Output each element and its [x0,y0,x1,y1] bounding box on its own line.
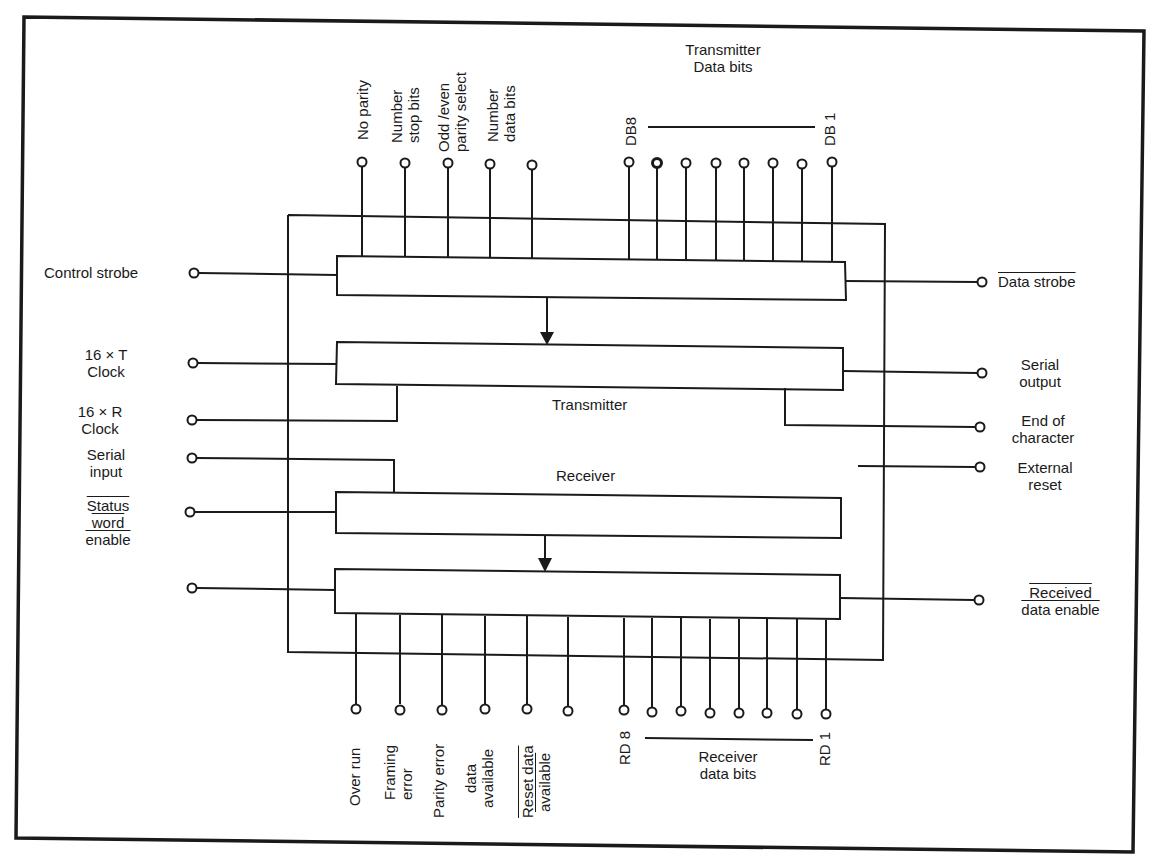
receiver-data-bits-title: Receiver data bits [683,748,773,782]
tx-buffer-block [337,256,846,300]
label-framing-error: Framing error [381,745,415,800]
label-received-data-enable: Received data enable [1008,584,1113,618]
label-db8: DB8 [622,117,639,146]
uart-diagram-canvas [0,0,1153,862]
label-receiver: Receiver [556,467,615,484]
label-over-run: Over run [346,748,363,806]
transmitter-block [336,342,843,390]
label-16x-t-clock: 16 × T Clock [76,346,136,380]
arrow-down-icon [540,332,554,345]
label-data-strobe: Data strobe [998,273,1076,290]
label-data-available: data available [462,749,496,808]
label-reset-data-available: Reset data available [519,745,553,818]
label-parity-error: Parity error [430,744,447,818]
receiver-buffer-block [336,492,841,538]
label-rd1: RD 1 [816,732,833,766]
label-serial-input: Serial input [76,446,136,480]
inner-bus-frame [288,215,885,660]
label-db1: DB 1 [821,113,838,146]
label-16x-r-clock: 16 × R Clock [70,403,130,437]
label-end-of-character: End of character [1003,412,1083,446]
label-number-stop-bits: Number stop bits [388,87,422,143]
arrow-down-icon [538,558,552,572]
label-rd8: RD 8 [616,731,633,765]
receiver-register-block [335,569,840,619]
label-number-data-bits: Number data bits [484,85,518,142]
label-transmitter: Transmitter [552,396,627,413]
transmitter-data-bits-title: Transmitter Data bits [668,41,778,75]
label-external-reset: External reset [1010,459,1080,493]
label-no-parity: No parity [354,80,371,140]
label-control-strobe: Control strobe [44,264,138,281]
outer-frame [16,17,1144,852]
label-status-word-enable: Status word enable [78,497,138,548]
label-parity-select: Odd /even parity select [435,72,469,152]
label-serial-output: Serial output [1010,356,1070,390]
